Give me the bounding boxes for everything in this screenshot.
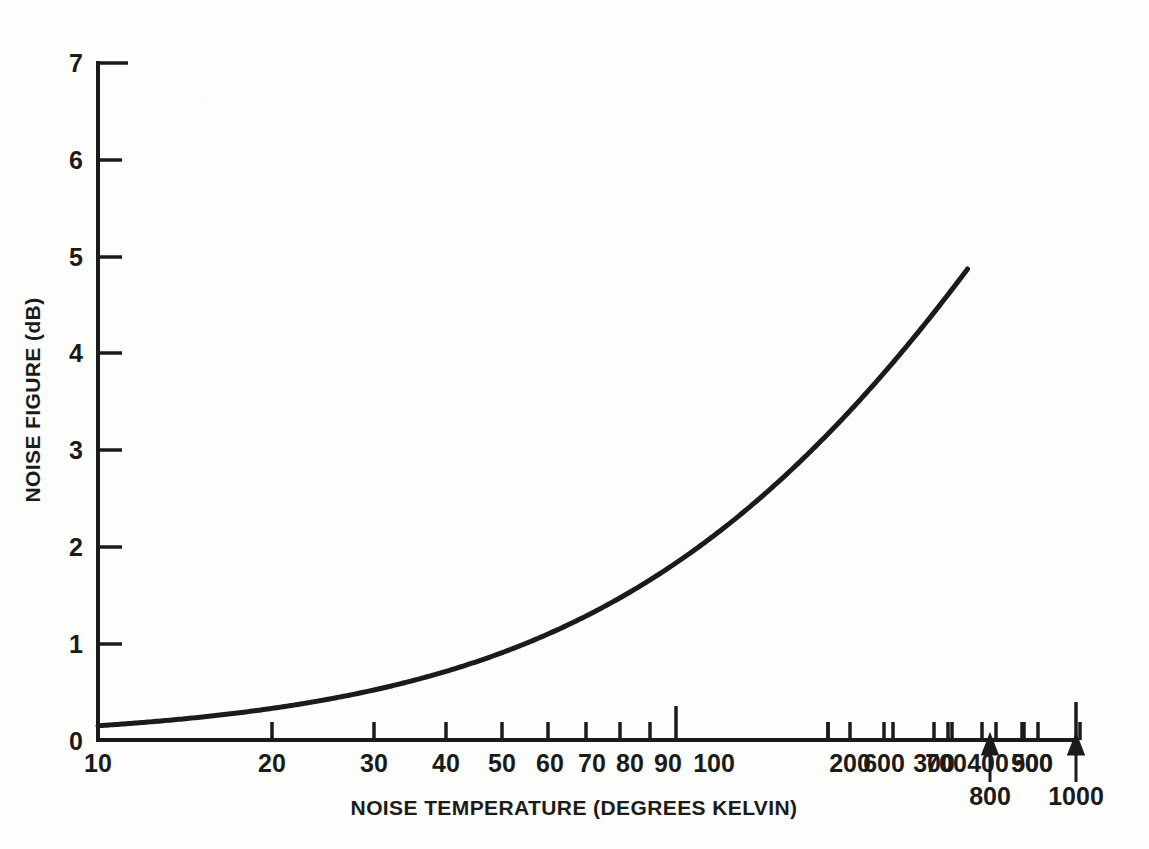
- x-axis-title: NOISE TEMPERATURE (DEGREES KELVIN): [351, 796, 798, 819]
- y-axis-title: NOISE FIGURE (dB): [21, 297, 44, 502]
- axis-titles-layer: NOISE TEMPERATURE (DEGREES KELVIN) NOISE…: [0, 0, 1149, 849]
- figure-page: 7 6 5 4 3 2 1 0: [0, 0, 1149, 849]
